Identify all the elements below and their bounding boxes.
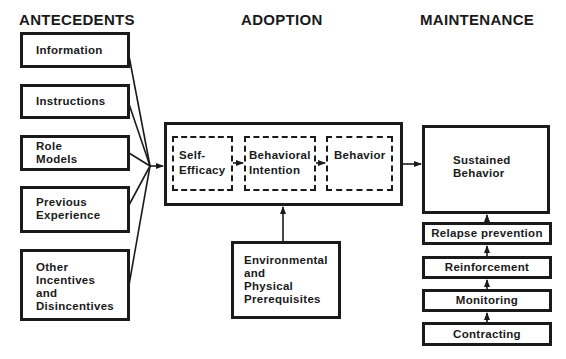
antecedent-role-models: Role Models: [20, 135, 130, 171]
link-role-models: [129, 153, 150, 166]
stage-behavior: Behavior: [326, 136, 393, 191]
stage-label: Behavior: [334, 148, 386, 163]
antecedent-information: Information: [20, 32, 130, 68]
link-previous-experience: [129, 166, 150, 205]
step-contracting: Contracting: [422, 322, 552, 346]
environment-label: Environmental and Physical Prerequisites: [244, 254, 328, 306]
antecedent-label: Previous Experience: [36, 196, 100, 222]
step-label: Reinforcement: [445, 261, 529, 274]
antecedent-label: Instructions: [36, 95, 105, 108]
link-instructions: [129, 104, 150, 166]
stage-label: Self- Efficacy: [179, 148, 226, 178]
header-maintenance: MAINTENANCE: [420, 11, 534, 28]
stage-self-efficacy: Self- Efficacy: [172, 136, 233, 191]
step-label: Contracting: [453, 328, 521, 341]
step-relapse-prevention: Relapse prevention: [422, 222, 552, 245]
stage-behavioral-intention: Behavioral Intention: [244, 136, 316, 191]
antecedent-label: Role Models: [36, 140, 77, 166]
antecedent-label: Information: [36, 44, 103, 57]
step-label: Relapse prevention: [431, 227, 543, 240]
step-label: Monitoring: [456, 294, 518, 307]
link-information: [129, 56, 150, 166]
step-monitoring: Monitoring: [422, 289, 552, 312]
step-reinforcement: Reinforcement: [422, 256, 552, 279]
environmental-prerequisites-box: Environmental and Physical Prerequisites: [231, 241, 341, 319]
antecedent-other-incentives: Other Incentives and Disincentives: [20, 249, 130, 321]
antecedent-label: Other Incentives and Disincentives: [36, 261, 114, 313]
header-antecedents: ANTECEDENTS: [19, 11, 135, 28]
antecedent-previous-experience: Previous Experience: [20, 186, 130, 233]
header-adoption: ADOPTION: [241, 11, 323, 28]
stage-label: Behavioral Intention: [249, 148, 311, 178]
sustained-label: Sustained Behavior: [453, 154, 511, 180]
sustained-behavior-box: Sustained Behavior: [422, 125, 550, 214]
antecedent-instructions: Instructions: [20, 84, 130, 119]
link-other-incentives: [129, 166, 150, 285]
